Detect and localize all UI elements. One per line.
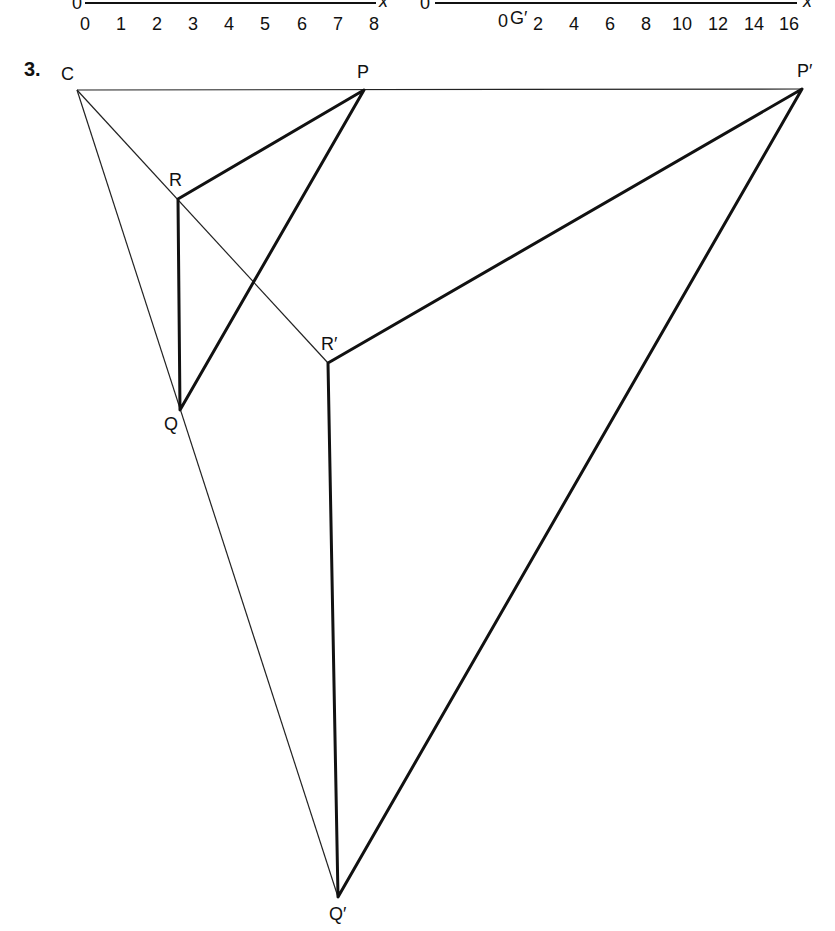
left-tick-3: 3 [188,14,198,34]
triangle-p-prime-q-prime-r-prime [328,89,802,897]
label-p-prime: P′ [797,61,813,81]
right-tick-10: 10 [672,14,692,34]
label-q-prime: Q′ [329,904,347,924]
right-tick-14: 14 [744,14,764,34]
label-p: P [357,62,369,82]
left-axis-x-label: x [378,0,389,11]
left-tick-8: 8 [369,14,379,34]
right-tick-4: 4 [569,14,579,34]
left-origin-label: 0 [72,0,82,13]
right-tick-0: 0 [498,11,508,31]
left-tick-6: 6 [297,14,307,34]
ray-c-to-p-prime [77,89,802,90]
left-tick-7: 7 [333,14,343,34]
label-r: R [169,170,182,190]
triangle-pqr [178,90,364,410]
left-axis-strip: 0 x 0 1 2 3 4 5 6 7 8 [72,0,389,34]
left-tick-0: 0 [80,14,90,34]
right-tick-6: 6 [605,14,615,34]
left-tick-1: 1 [116,14,126,34]
label-q: Q [164,414,178,434]
ray-c-to-q-prime [77,90,338,897]
right-tick-8: 8 [641,14,651,34]
right-tick-2: 2 [533,14,543,34]
label-r-prime: R′ [321,334,338,354]
question-number: 3. [24,58,41,80]
enlargement-diagram: 0 x 0 1 2 3 4 5 6 7 8 0 x 0 G′ 2 4 6 8 1… [0,0,835,931]
right-tick-16: 16 [779,14,799,34]
ray-c-to-r-prime [77,90,328,363]
right-axis-strip: 0 x 0 G′ 2 4 6 8 10 12 14 16 [420,0,813,34]
right-axis-x-label: x [802,0,813,11]
right-point-g-prime: G′ [510,8,528,28]
right-origin-label: 0 [420,0,430,13]
right-tick-12: 12 [708,14,728,34]
left-tick-4: 4 [224,14,234,34]
construction-rays [77,89,802,897]
label-c: C [61,64,74,84]
question-3: 3. C P R Q P′ R′ Q′ [24,58,813,924]
left-tick-2: 2 [152,14,162,34]
left-tick-5: 5 [260,14,270,34]
